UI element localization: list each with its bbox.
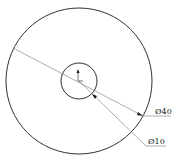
- arrowhead-outer-icon: [137, 112, 143, 116]
- dimension-label-outer: Ø40: [155, 107, 172, 116]
- leader-line-inner: [79, 81, 146, 146]
- technical-drawing: Ø40 Ø10: [0, 0, 173, 168]
- dimension-inner: Ø10: [79, 81, 166, 146]
- dimension-label-inner: Ø10: [148, 137, 165, 146]
- arrowhead-inner-icon: [92, 94, 97, 99]
- leader-line-outer: [13, 48, 143, 116]
- origin-marker-icon: [77, 69, 84, 81]
